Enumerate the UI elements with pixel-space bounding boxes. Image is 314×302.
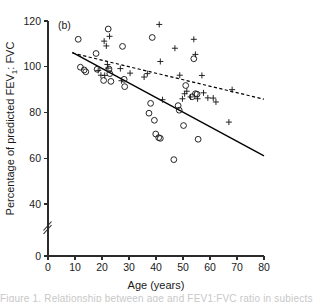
x-axis-title: Age (years) bbox=[128, 279, 185, 291]
figure-caption-partial: Figure 1. Relationship between age and F… bbox=[0, 293, 314, 302]
x-tick-label-40: 40 bbox=[150, 261, 162, 273]
y-axis-title: Percentage of predicted FEV1: FVC bbox=[4, 42, 19, 216]
x-tick-label-50: 50 bbox=[177, 261, 189, 273]
x-tick-label-10: 10 bbox=[69, 261, 81, 273]
x-tick-label-70: 70 bbox=[231, 261, 243, 273]
scatter-plot: 040608010012001020304050607080Age (years… bbox=[0, 0, 314, 302]
y-tick-label-40: 40 bbox=[29, 198, 41, 210]
figure-panel: 040608010012001020304050607080Age (years… bbox=[0, 0, 314, 302]
x-tick-label-30: 30 bbox=[123, 261, 135, 273]
y-tick-label-0: 0 bbox=[35, 250, 41, 262]
data-series-plus-group bbox=[95, 21, 235, 125]
y-tick-label-60: 60 bbox=[29, 152, 41, 164]
solid-regression bbox=[72, 52, 264, 156]
x-tick-label-20: 20 bbox=[96, 261, 108, 273]
panel-label: (b) bbox=[58, 19, 71, 31]
x-tick-label-80: 80 bbox=[258, 261, 270, 273]
x-tick-label-0: 0 bbox=[45, 261, 51, 273]
y-tick-label-120: 120 bbox=[23, 15, 41, 27]
data-series-circle-group bbox=[75, 26, 201, 162]
x-tick-label-60: 60 bbox=[204, 261, 216, 273]
y-tick-label-80: 80 bbox=[29, 106, 41, 118]
y-tick-label-100: 100 bbox=[23, 60, 41, 72]
